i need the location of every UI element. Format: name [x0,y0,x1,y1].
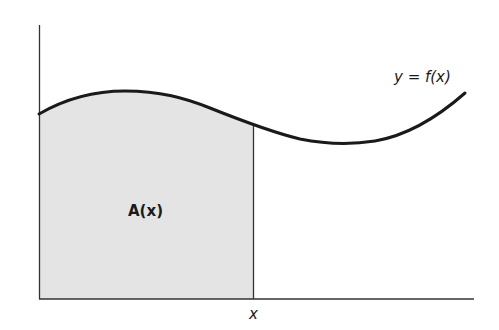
area-label: A(x) [128,202,163,220]
shaded-area-region [39,91,253,299]
x-axis-label: x [248,305,258,323]
area-function-diagram: y = f(x) A(x) x [0,0,499,330]
curve-label: y = f(x) [393,68,451,86]
